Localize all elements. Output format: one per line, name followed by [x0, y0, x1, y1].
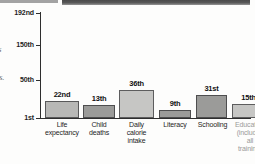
y-tick-192nd: [36, 13, 40, 14]
x-axis-category-labels: Life expectancy Child deaths Daily calor…: [41, 121, 251, 164]
category-line: Literacy: [155, 121, 195, 129]
y-label-1st-wrap: 1st: [4, 114, 34, 122]
category-line: Daily: [119, 121, 154, 129]
category-line: intake: [119, 137, 154, 145]
bar-group-schooling[interactable]: 31st: [196, 11, 227, 118]
bar-group-education[interactable]: 15th: [232, 11, 255, 118]
chart-page: s s. 192nd 150th 50th 1st 22nd: [0, 0, 255, 164]
y-axis-label-150th: 150th: [16, 41, 34, 48]
bar-education[interactable]: [232, 104, 255, 118]
category-label-education: Education (includes all training): [230, 121, 255, 153]
bar-value-daily-calorie-intake: 36th: [119, 79, 154, 88]
y-axis-label-50th: 50th: [20, 76, 34, 83]
margin-text-fragment-1: s: [0, 44, 1, 54]
plot-area: 192nd 150th 50th 1st 22nd 13th 36th: [40, 12, 251, 119]
category-label-life-expectancy: Life expectancy: [43, 121, 81, 137]
category-line: all: [230, 137, 255, 145]
bar-value-literacy: 9th: [159, 99, 191, 108]
bar-literacy[interactable]: [159, 110, 191, 118]
category-line: training): [230, 145, 255, 153]
category-label-daily-calorie-intake: Daily calorie intake: [119, 121, 154, 145]
bar-group-literacy[interactable]: 9th: [159, 11, 191, 118]
bar-child-deaths[interactable]: [83, 105, 115, 118]
category-label-literacy: Literacy: [155, 121, 195, 129]
category-line: calorie: [119, 129, 154, 137]
y-label-192nd-wrap: 192nd: [4, 9, 34, 17]
bar-group-daily-calorie-intake[interactable]: 36th: [119, 11, 154, 118]
bar-value-life-expectancy: 22nd: [45, 90, 79, 99]
bar-group-child-deaths[interactable]: 13th: [83, 11, 115, 118]
bar-group-life-expectancy[interactable]: 22nd: [45, 11, 79, 118]
bar-value-child-deaths: 13th: [83, 94, 115, 103]
bar-daily-calorie-intake[interactable]: [119, 90, 154, 118]
y-tick-1st: [36, 118, 40, 119]
scan-artifact-band-left: [0, 0, 58, 3]
y-axis-label-192nd: 192nd: [14, 9, 34, 16]
category-line: deaths: [82, 129, 116, 137]
bar-value-schooling: 31st: [196, 84, 227, 93]
y-tick-150th: [36, 45, 40, 46]
bar-value-education: 15th: [232, 93, 255, 102]
y-label-150th-wrap: 150th: [4, 41, 34, 49]
y-axis-label-1st: 1st: [24, 114, 34, 121]
y-tick-50th: [36, 80, 40, 81]
category-line: Child: [82, 121, 116, 129]
category-label-schooling: Schooling: [192, 121, 233, 129]
category-line: expectancy: [43, 129, 81, 137]
category-line: Schooling: [192, 121, 233, 129]
category-line: Life: [43, 121, 81, 129]
y-label-50th-wrap: 50th: [4, 76, 34, 84]
bar-life-expectancy[interactable]: [45, 101, 79, 118]
category-line: Education: [230, 121, 255, 129]
category-line: (includes: [230, 129, 255, 137]
category-label-child-deaths: Child deaths: [82, 121, 116, 137]
scan-artifact-band: [62, 0, 250, 5]
bar-schooling[interactable]: [196, 95, 227, 118]
bar-series: 22nd 13th 36th 9th 31st 15th: [41, 12, 251, 119]
